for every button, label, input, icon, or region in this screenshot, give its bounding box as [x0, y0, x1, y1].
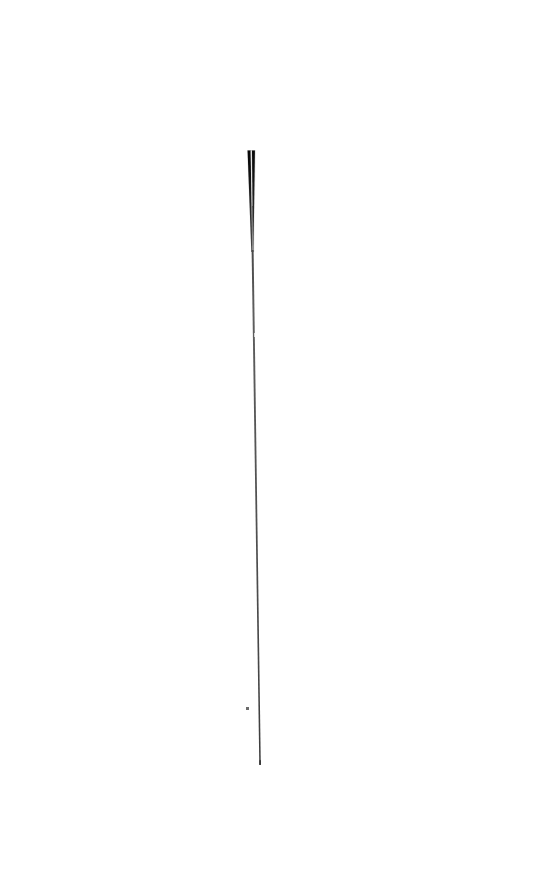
needle-illustration: [0, 0, 543, 873]
needle-shaft-break: [254, 333, 256, 337]
dust-speck: [246, 707, 249, 710]
needle-bottom-tip: [259, 760, 261, 765]
image-background: [0, 0, 543, 873]
scanned-image-canvas: acupuncture needle: [0, 0, 543, 873]
